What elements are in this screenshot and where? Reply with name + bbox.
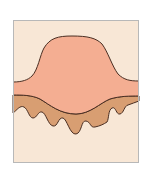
skin-cross-section-diagram [0,0,152,188]
